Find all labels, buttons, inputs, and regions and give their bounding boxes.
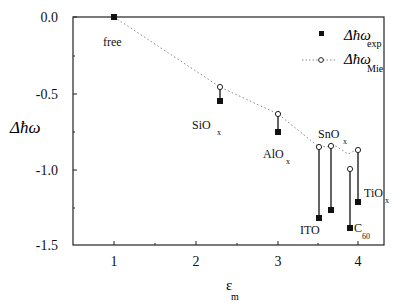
annotation-ito: ITO xyxy=(300,223,320,237)
legend-sub-exp: exp xyxy=(367,38,381,49)
x-tick-label: 2 xyxy=(193,254,200,269)
x-axis xyxy=(114,241,358,245)
y-tick-label: -0.5 xyxy=(36,87,58,102)
annotation-siox: SiO xyxy=(192,118,211,132)
chart: 0.0 -0.5 -1.0 -1.5 1 2 3 4 Δħω ε m xyxy=(0,0,409,306)
annotation-c60: C xyxy=(354,221,362,235)
annotation-alox: AlO xyxy=(263,147,284,161)
annotation-sub: x xyxy=(385,196,389,205)
annotation-sub: 60 xyxy=(362,232,370,241)
legend: Δħω exp Δħω Mie xyxy=(302,27,384,74)
annotation-tiox: TiO xyxy=(364,186,383,200)
legend-square-icon xyxy=(319,31,324,36)
annotation-sub: x xyxy=(286,157,290,166)
annotation-snox: SnO xyxy=(318,127,340,141)
annotation-free: free xyxy=(103,35,122,49)
annotation-sub: x xyxy=(343,137,347,146)
exp-markers xyxy=(111,14,361,231)
x-tick-label: 4 xyxy=(355,254,362,269)
x-tick-label: 3 xyxy=(275,254,282,269)
x-tick-label: 1 xyxy=(111,254,118,269)
y-tick-label: -1.0 xyxy=(36,163,58,178)
legend-circle-icon xyxy=(319,58,324,63)
x-axis-title-sub: m xyxy=(231,291,239,302)
y-tick-label: 0.0 xyxy=(41,10,59,25)
y-axis-title: Δħω xyxy=(9,118,40,137)
annotation-sub: x xyxy=(217,128,221,137)
legend-sub-mie: Mie xyxy=(367,63,384,74)
y-tick-label: -1.5 xyxy=(36,238,58,253)
